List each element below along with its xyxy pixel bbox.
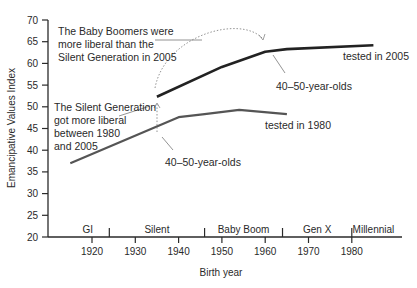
y-tick-label: 50: [27, 101, 39, 112]
chart-canvas: 2025303540455055606570 19201930194019501…: [0, 0, 417, 288]
y-tick-label: 55: [27, 80, 39, 91]
x-axis-label: Birth year: [200, 267, 243, 278]
y-tick-label: 35: [27, 166, 39, 177]
y-tick-label: 20: [27, 232, 39, 243]
y-tick-label: 60: [27, 58, 39, 69]
annotation-age-1980: 40–50-year-olds: [165, 156, 241, 168]
generation-label: Gen X: [303, 224, 332, 235]
x-tick-label: 1920: [81, 246, 104, 257]
series-label-1980: tested in 1980: [265, 119, 331, 131]
generation-label: GI: [82, 224, 93, 235]
annotation-silent: The Silent Generation got more liberal b…: [54, 101, 159, 152]
y-tick-label: 65: [27, 36, 39, 47]
generation-label: Silent: [144, 224, 169, 235]
arrowhead-icon: [259, 34, 265, 40]
annotation-boomers: The Baby Boomers were more liberal than …: [58, 25, 177, 63]
x-axis: 1920193019401950196019701980 GISilentBab…: [48, 224, 402, 257]
y-axis: 2025303540455055606570: [27, 15, 48, 243]
x-tick-label: 1970: [297, 246, 320, 257]
series-label-2005: tested in 2005: [343, 50, 409, 62]
y-tick-label: 25: [27, 210, 39, 221]
leader-line: [273, 55, 285, 73]
y-tick-label: 40: [27, 145, 39, 156]
x-tick-label: 1940: [167, 246, 190, 257]
generation-label: Baby Boom: [218, 224, 270, 235]
y-tick-label: 70: [27, 15, 39, 26]
x-tick-label: 1930: [124, 246, 147, 257]
leader-line: [162, 137, 173, 150]
x-tick-label: 1950: [211, 246, 234, 257]
y-axis-label: Emancipative Values Index: [6, 68, 17, 188]
x-tick-label: 1980: [341, 246, 364, 257]
y-tick-label: 30: [27, 188, 39, 199]
annotation-age-2005: 40–50-year-olds: [276, 80, 352, 92]
y-tick-label: 45: [27, 123, 39, 134]
x-tick-label: 1960: [254, 246, 277, 257]
generation-label: Millennial: [353, 224, 395, 235]
